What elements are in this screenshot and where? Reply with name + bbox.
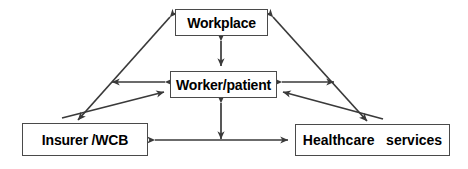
connector-insurer-worker bbox=[62, 92, 164, 118]
node-insurer-wcb[interactable]: Insurer /WCB bbox=[22, 123, 148, 156]
connector-healthcare-worker bbox=[283, 92, 383, 119]
connector-workplace-healthcare bbox=[273, 17, 367, 121]
node-healthcare-services[interactable]: Healthcare services bbox=[295, 124, 450, 156]
relationship-diagram: Workplace Worker/patient Insurer /WCB He… bbox=[0, 0, 468, 169]
node-worker-patient-label: Worker/patient bbox=[176, 78, 271, 92]
node-insurer-wcb-label: Insurer /WCB bbox=[42, 133, 128, 147]
connector-workplace-insurer bbox=[78, 17, 170, 120]
node-workplace[interactable]: Workplace bbox=[175, 9, 268, 36]
node-healthcare-services-label: Healthcare services bbox=[303, 133, 442, 147]
node-worker-patient[interactable]: Worker/patient bbox=[170, 71, 277, 98]
node-workplace-label: Workplace bbox=[187, 16, 256, 30]
